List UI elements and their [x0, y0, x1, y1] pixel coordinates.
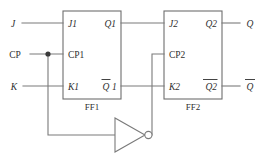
ff1-caption: FF1: [85, 102, 100, 112]
input-label-cp: CP: [9, 50, 21, 60]
ff1-pin-label-k1: K1: [67, 82, 79, 92]
ff1-pin-label-q1bar-suffix: 1: [112, 82, 117, 92]
ff1-pin-label-cp1: CP1: [68, 50, 85, 60]
circuit-diagram-canvas: J CP K J1 CP1 K1 Q1 Q 1 FF1 J2 CP2 K2 Q2…: [0, 0, 265, 161]
output-label-q: Q: [247, 19, 254, 29]
ff1-pin-label-j1: J1: [68, 19, 77, 29]
inverter-triangle-icon: [115, 118, 145, 152]
ff1-pin-label-q1bar-base: Q: [103, 82, 110, 92]
ff2-pin-label-j2: J2: [169, 19, 178, 29]
junction-dot-cp: [45, 51, 50, 56]
ff2-pin-label-q2: Q2: [205, 19, 217, 29]
ff2-pin-label-cp2: CP2: [169, 50, 186, 60]
ff2-caption: FF2: [186, 102, 201, 112]
input-label-j: J: [11, 19, 16, 29]
ff2-pin-label-k2: K2: [168, 82, 180, 92]
circuit-svg: J CP K J1 CP1 K1 Q1 Q 1 FF1 J2 CP2 K2 Q2…: [0, 0, 265, 161]
wire-inverter-to-cp2: [152, 54, 164, 135]
ff2-pin-label-q2bar: Q2: [205, 82, 217, 92]
ff1-pin-label-q1: Q1: [104, 19, 116, 29]
inverter-bubble-icon: [145, 131, 152, 138]
output-label-qbar: Q: [247, 82, 254, 92]
wire-cp-branch-to-inverter: [48, 54, 115, 135]
input-label-k: K: [10, 82, 18, 92]
